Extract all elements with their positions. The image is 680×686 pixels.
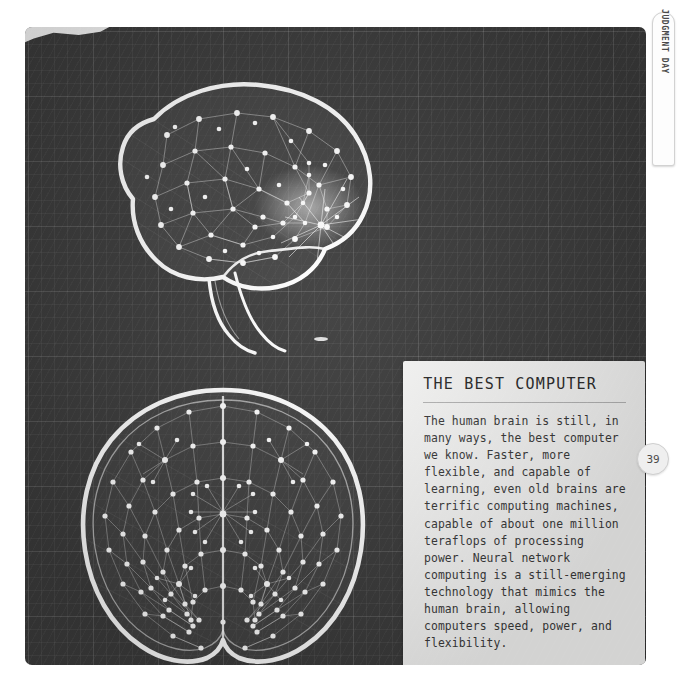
card-body-text: The human brain is still, in many ways, …: [403, 403, 645, 652]
page-root: THE BEST COMPUTER The human brain is sti…: [0, 0, 680, 686]
chapter-side-tab-label: JUDGMENT DAY: [659, 9, 668, 74]
brain-side-view-neural-network: [59, 57, 389, 357]
page-number-badge: 39: [637, 443, 669, 475]
info-card: THE BEST COMPUTER The human brain is sti…: [403, 361, 645, 665]
dark-grid-paper: THE BEST COMPUTER The human brain is sti…: [25, 27, 646, 665]
brain-top-view-neural-network: [73, 382, 373, 665]
card-heading: THE BEST COMPUTER: [403, 361, 638, 393]
chapter-side-tab[interactable]: JUDGMENT DAY: [652, 12, 675, 166]
